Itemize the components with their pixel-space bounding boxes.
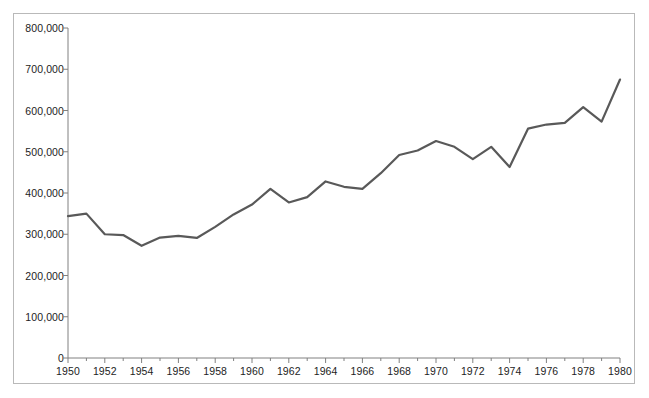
x-axis-tick-label: 1978 — [563, 366, 603, 377]
x-axis-tick-label: 1956 — [158, 366, 198, 377]
x-axis-tick-label: 1966 — [342, 366, 382, 377]
data-series-line — [68, 80, 620, 246]
x-axis-tick-label: 1950 — [48, 366, 88, 377]
x-axis-tick-label: 1968 — [379, 366, 419, 377]
x-axis-tick-label: 1972 — [453, 366, 493, 377]
x-axis-tick-label: 1958 — [195, 366, 235, 377]
x-axis-tick-label: 1974 — [490, 366, 530, 377]
x-axis-tick-label: 1980 — [600, 366, 640, 377]
y-axis — [63, 28, 68, 358]
x-axis-tick-label: 1964 — [306, 366, 346, 377]
x-axis-tick-label: 1952 — [85, 366, 125, 377]
x-axis-tick-label: 1970 — [416, 366, 456, 377]
chart-container: 0100,000200,000300,000400,000500,000600,… — [0, 0, 649, 398]
x-axis-tick-label: 1962 — [269, 366, 309, 377]
x-axis-tick-label: 1954 — [122, 366, 162, 377]
x-axis — [68, 358, 620, 363]
x-axis-tick-label: 1960 — [232, 366, 272, 377]
chart-plot-area — [0, 0, 649, 398]
x-axis-tick-label: 1976 — [526, 366, 566, 377]
